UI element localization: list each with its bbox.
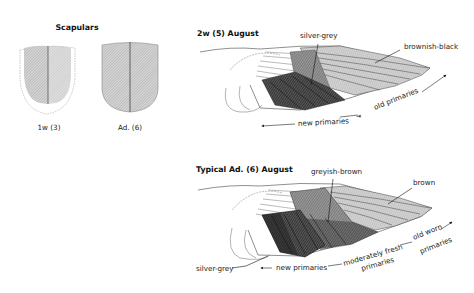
label-silver-grey-bottom: silver-grey [196,264,234,273]
label-brownish-black: brownish-black [404,42,459,51]
wing-adult-panel: Typical Ad. (6) August [196,165,454,273]
wing-2w-title: 2w (5) August [197,29,259,38]
divider-tick-top: ⇥ [356,112,361,119]
scapulars-title: Scapulars [55,23,98,32]
scapular-adult-caption: Ad. (6) [118,123,142,132]
scapular-adult-icon [102,42,158,112]
label-brown: brown [413,178,435,187]
wing-2w-panel: 2w (5) August [197,29,459,128]
wing-adult-title: Typical Ad. (6) August [196,165,293,174]
scapulars-panel: Scapulars 1w (3) Ad. (6) [20,23,158,132]
label-silver-grey-top: silver-grey [300,31,338,40]
label-greyish-brown: greyish-brown [311,167,362,176]
scapular-1w-icon [20,46,75,114]
label-new-primaries-bottom: new primaries [276,263,327,272]
moult-illustration: Scapulars 1w (3) Ad. (6) 2w (5) August [0,0,474,293]
scapular-1w-caption: 1w (3) [38,123,61,132]
label-new-primaries-top: new primaries [298,116,350,128]
